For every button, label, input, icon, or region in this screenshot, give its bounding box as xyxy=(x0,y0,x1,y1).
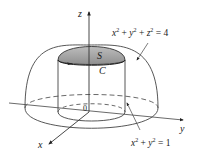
x-axis-label: x xyxy=(37,139,43,150)
sphere-equation: x2 + y2 + z2 = 4 xyxy=(111,27,168,38)
cap-surface-s xyxy=(58,47,125,65)
equator-back-dashed xyxy=(25,95,158,109)
y-axis-label: y xyxy=(179,123,185,134)
surface-s-label: S xyxy=(97,50,102,61)
z-axis-label: z xyxy=(77,8,82,19)
cylinder-label-pointer xyxy=(127,103,140,130)
cylinder-equation: x2 + y2 = 1 xyxy=(130,137,171,148)
hemisphere-cylinder-diagram: z y x 0 S C x2 + y2 + z2 = 4 x2 + y2 = 1 xyxy=(0,0,197,158)
curve-c-label: C xyxy=(99,65,106,76)
origin-label: 0 xyxy=(83,104,87,113)
